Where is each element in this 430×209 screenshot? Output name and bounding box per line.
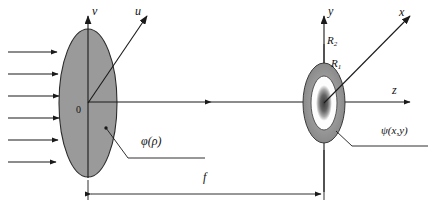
R2-label: R2 <box>327 34 337 48</box>
origin-label: 0 <box>76 104 81 115</box>
R2-subscript: 2 <box>334 40 338 48</box>
R1-label: R1 <box>331 57 341 71</box>
z-axis-label: z <box>392 83 397 98</box>
psi-label: ψ(x,y) <box>381 124 408 136</box>
x-axis-label: x <box>399 5 404 20</box>
R1-base: R <box>331 57 338 69</box>
plane-wave-arrows <box>8 52 59 162</box>
R2-base: R <box>327 34 334 46</box>
v-axis-label: v <box>92 4 97 19</box>
focal-length-label: f <box>203 170 206 185</box>
u-axis-label: u <box>135 4 141 19</box>
figure-canvas: v u 0 φ(ρ) y x z R2 R1 ψ(x,y) f <box>0 0 430 209</box>
R1-subscript: 1 <box>338 63 342 71</box>
diagram-svg <box>0 0 430 209</box>
y-axis-label: y <box>328 4 333 19</box>
phi-label: φ(ρ) <box>141 134 161 149</box>
